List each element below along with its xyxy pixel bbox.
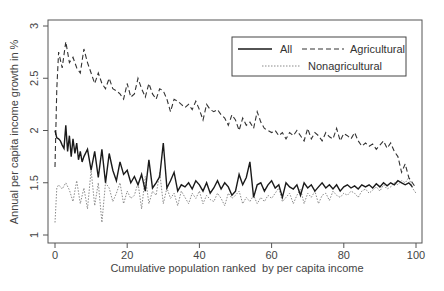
- line-chart: 11.522.53 020406080100 All Agricultural …: [0, 0, 444, 291]
- x-tick-label: 40: [193, 249, 205, 261]
- series-all-line: [55, 125, 412, 197]
- y-tick-label: 3: [28, 23, 40, 29]
- x-tick-label: 80: [338, 249, 350, 261]
- legend-label-nonagricultural: Nonagricultural: [308, 60, 382, 72]
- y-tick-label: 2.5: [28, 71, 40, 86]
- y-axis: 11.522.53: [28, 23, 48, 238]
- x-axis-title: Cumulative population ranked by per capi…: [110, 262, 363, 274]
- series-nonagricultural-line: [55, 170, 416, 222]
- y-axis-title: Annual per capita income growth in %: [8, 39, 20, 224]
- y-tick-label: 2: [28, 127, 40, 133]
- x-tick-label: 100: [407, 249, 425, 261]
- legend-label-all: All: [280, 43, 292, 55]
- legend: All Agricultural Nonagricultural: [232, 37, 406, 76]
- x-tick-label: 0: [52, 249, 58, 261]
- x-tick-label: 20: [121, 249, 133, 261]
- x-tick-label: 60: [265, 249, 277, 261]
- legend-label-agricultural: Agricultural: [350, 43, 405, 55]
- y-tick-label: 1: [28, 232, 40, 238]
- y-tick-label: 1.5: [28, 175, 40, 190]
- x-axis: 020406080100: [52, 243, 425, 261]
